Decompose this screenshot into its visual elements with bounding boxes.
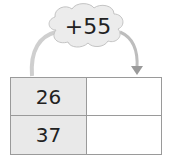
arrow-head-icon: [131, 66, 143, 75]
output-cell[interactable]: [87, 78, 161, 116]
right-arc: [120, 32, 137, 68]
function-table: 26 37: [10, 77, 162, 155]
output-cell[interactable]: [87, 116, 161, 154]
left-arc: [32, 32, 56, 76]
operation-label: +55: [58, 14, 118, 39]
input-cell: 26: [11, 78, 87, 116]
input-cell: 37: [11, 116, 87, 154]
